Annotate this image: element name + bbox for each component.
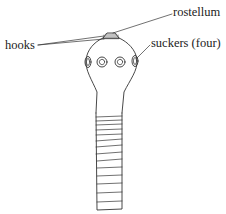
suckers-leader [137, 45, 150, 58]
rostellum-label: rostellum [173, 6, 220, 19]
body-outline [96, 113, 122, 210]
rostellum-outline [103, 33, 119, 38]
rostellum-leader [113, 14, 172, 33]
hooks-label: hooks [5, 39, 35, 52]
segment-lines [96, 116, 122, 202]
suckers-label: suckers (four) [151, 37, 221, 50]
suckers [85, 56, 138, 68]
scolex-drawing [0, 0, 226, 214]
head-outline [86, 38, 137, 113]
scolex-diagram: rostellum hooks suckers (four) [0, 0, 226, 214]
